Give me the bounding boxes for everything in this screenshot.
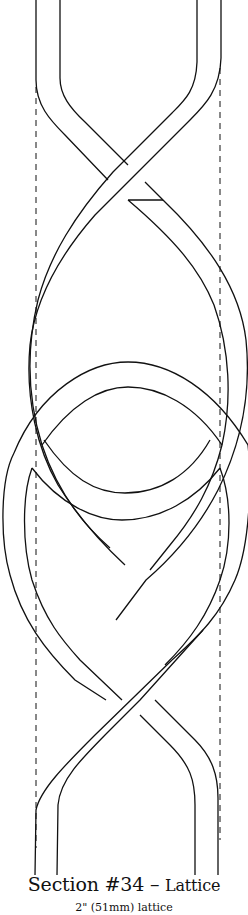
ring-bottom-inner xyxy=(44,440,210,493)
strand-a-inner-cont xyxy=(128,200,228,570)
strand-a-outer xyxy=(36,0,108,180)
section-label: Section #34 xyxy=(28,873,144,895)
strand-b-outer xyxy=(29,0,221,565)
lower-cross-under-inner xyxy=(155,700,218,875)
section-title: Section #34 – Lattice xyxy=(0,873,248,895)
ring-bottom-outer xyxy=(32,468,220,520)
strand-b-inner xyxy=(30,0,197,548)
right-loop-outer xyxy=(172,445,248,660)
lower-cross-under-outer xyxy=(140,715,195,875)
lower-cross-over-outer xyxy=(35,660,172,875)
lower-cross-over-inner xyxy=(57,630,203,875)
ring-top-inner xyxy=(42,387,222,445)
left-loop-inner xyxy=(25,468,123,700)
pattern-subtitle: 2" (51mm) lattice xyxy=(0,901,248,914)
lattice-pattern-diagram xyxy=(0,0,248,875)
pattern-name: Lattice xyxy=(165,876,220,895)
title-separator: – xyxy=(150,873,159,895)
left-loop-outer xyxy=(3,453,106,700)
ring-top-outer xyxy=(14,362,248,453)
